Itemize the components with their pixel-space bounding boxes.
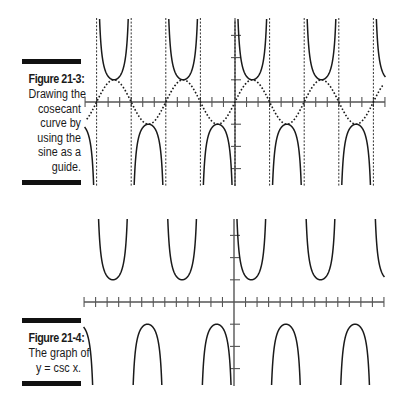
cosecant-curve-branch bbox=[134, 124, 163, 185]
cosecant-curve-branch bbox=[306, 219, 335, 280]
cosecant-curve-branch bbox=[273, 124, 302, 185]
cosecant-curve-branch bbox=[341, 324, 370, 385]
cosecant-curve-branch bbox=[168, 219, 197, 280]
cosecant-curve-branch bbox=[376, 19, 385, 77]
cosecant-curve-branch bbox=[237, 219, 266, 280]
cosecant-curve-branch bbox=[375, 219, 384, 277]
cosecant-curve-branch bbox=[342, 124, 371, 185]
cosecant-curve-branch bbox=[307, 19, 336, 80]
cosecant-curve-branch bbox=[133, 324, 162, 385]
cosecant-curve-branch bbox=[272, 324, 301, 385]
cosecant-curve-branch bbox=[202, 324, 231, 385]
cosecant-curve-branch bbox=[238, 19, 267, 80]
figure-21-4-plot bbox=[84, 219, 385, 386]
cosecant-graphs bbox=[0, 0, 406, 412]
figure-21-3-plot bbox=[85, 18, 386, 186]
cosecant-curve-branch bbox=[169, 19, 198, 80]
cosecant-curve-branch bbox=[99, 219, 128, 280]
cosecant-curve-branch bbox=[85, 127, 94, 185]
cosecant-curve-branch bbox=[100, 19, 129, 80]
cosecant-curve-branch bbox=[84, 327, 93, 385]
cosecant-curve-branch bbox=[203, 124, 232, 185]
